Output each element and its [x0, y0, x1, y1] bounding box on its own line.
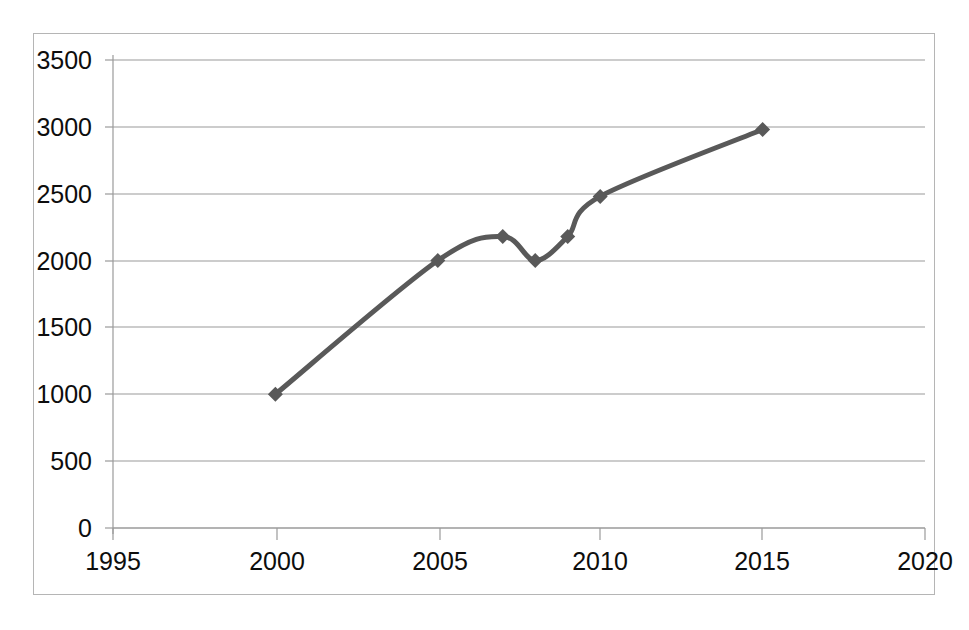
x-tick-label-2005: 2005	[412, 547, 468, 575]
series-line-path	[275, 130, 762, 395]
x-tick-labels: 1995 2000 2005 2010 2015 2020	[85, 547, 953, 575]
x-tick-label-2020: 2020	[897, 547, 953, 575]
chart-container: 3500 3000 2500 2000 1500 1000 500 0 1995…	[0, 0, 969, 630]
y-axis	[105, 55, 113, 534]
x-tick-label-2015: 2015	[734, 547, 790, 575]
x-tick-label-1995: 1995	[85, 547, 141, 575]
y-tick-label-2000: 2000	[36, 247, 92, 275]
y-tick-label-3000: 3000	[36, 113, 92, 141]
y-tick-labels: 3500 3000 2500 2000 1500 1000 500 0	[36, 46, 92, 542]
y-tick-label-1000: 1000	[36, 380, 92, 408]
y-tick-label-2500: 2500	[36, 180, 92, 208]
x-tick-label-2000: 2000	[249, 547, 305, 575]
x-tick-label-2010: 2010	[572, 547, 628, 575]
y-tick-label-500: 500	[50, 447, 92, 475]
y-tick-label-1500: 1500	[36, 313, 92, 341]
y-tick-label-3500: 3500	[36, 46, 92, 74]
data-point-marker-2015	[755, 122, 770, 137]
x-axis	[113, 528, 925, 540]
series-markers	[268, 122, 770, 402]
line-chart-plot: 3500 3000 2500 2000 1500 1000 500 0 1995…	[0, 0, 969, 630]
data-point-marker-2007	[495, 229, 510, 244]
y-tick-label-0: 0	[78, 514, 92, 542]
y-gridlines	[113, 60, 925, 528]
